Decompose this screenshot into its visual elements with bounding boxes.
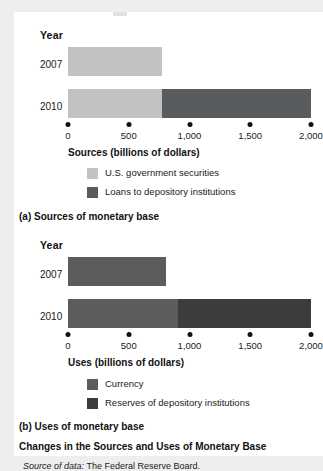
bar-segment [68,89,162,118]
panel-b-year-header: Year [40,239,63,251]
axis-tick-label: 2,000 [299,340,323,351]
legend-label-reserves-of-depository-institutions: Reserves of depository institutions [105,397,250,408]
legend-label-us-government-securities: U.S. government securities [105,167,219,178]
axis-tick-dot [126,332,131,337]
figure-source-value: The Federal Reserve Board. [86,461,200,471]
figure-card: Year 2007 2010 05001,0001,5002,000 Sourc… [14,12,323,456]
figure-source-label: Source of data: [23,461,84,471]
panel-a-plot-area: 05001,0001,5002,000 [54,42,323,132]
scan-artifact [113,12,127,16]
bar-segment [68,47,162,76]
legend-swatch-reserves-of-depository-institutions [87,398,98,409]
axis-tick-dot [248,122,253,127]
legend-swatch-us-government-securities [87,168,98,179]
axis-tick-dot [66,332,71,337]
panel-a-x-axis-tick-labels: 05001,0001,5002,000 [54,130,323,142]
legend-label-currency: Currency [105,378,144,389]
axis-tick-dot [248,332,253,337]
figure-title: Changes in the Sources and Uses of Monet… [19,441,266,452]
axis-tick-label: 1,000 [178,340,202,351]
axis-tick-label: 0 [65,130,70,141]
axis-tick-dot [187,122,192,127]
figure-source: Source of data: The Federal Reserve Boar… [23,461,200,471]
axis-tick-dot [126,122,131,127]
panel-b-axis-title: Uses (billions of dollars) [68,357,184,368]
axis-tick-label: 2,000 [299,130,323,141]
legend-swatch-currency [87,379,98,390]
panel-b-x-axis-ticks [54,332,323,338]
panel-a-caption: (a) Sources of monetary base [19,211,159,222]
panel-b-plot-area: 05001,0001,5002,000 [54,252,323,342]
panel-b-x-axis-tick-labels: 05001,0001,5002,000 [54,340,323,352]
axis-tick-dot [309,122,314,127]
legend-label-loans-to-depository-institutions: Loans to depository institutions [105,186,235,197]
axis-tick-label: 1,500 [238,130,262,141]
axis-tick-dot [187,332,192,337]
bar-segment [162,89,311,118]
panel-b-caption: (b) Uses of monetary base [19,421,144,432]
panel-a-x-axis-ticks [54,122,323,128]
panel-a-axis-title: Sources (billions of dollars) [68,147,200,158]
axis-tick-label: 0 [65,340,70,351]
axis-tick-label: 1,500 [238,340,262,351]
bar-segment [68,257,166,286]
legend-swatch-loans-to-depository-institutions [87,187,98,198]
axis-tick-label: 500 [121,130,137,141]
axis-tick-dot [66,122,71,127]
axis-tick-label: 500 [121,340,137,351]
axis-tick-label: 1,000 [178,130,202,141]
axis-tick-dot [309,332,314,337]
bar-segment [178,299,311,328]
bar-segment [68,299,178,328]
panel-a-year-header: Year [40,29,63,41]
